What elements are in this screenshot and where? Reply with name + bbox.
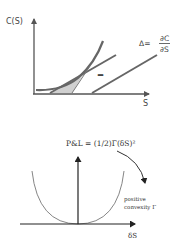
annotation-convexity: convexity Γ	[124, 204, 156, 211]
pnl-formula: P&L = (1/2)Γ(δS)²	[66, 139, 135, 148]
delta-formula: Δ= ∂C ∂S	[139, 34, 170, 54]
y-axis-label: C(S)	[6, 17, 23, 26]
convexity-curved-arrow	[117, 151, 145, 183]
option-price-chart: – C(S) S Δ= ∂C ∂S	[6, 17, 170, 108]
x-axis-label: S	[143, 99, 148, 108]
tangent-delta-line	[50, 55, 116, 93]
minus-sign: –	[97, 66, 104, 82]
pnl-x-axis-label: δS	[128, 232, 137, 240]
gamma-pnl-chart: P&L = (1/2)Γ(δS)² positive convexity Γ δ…	[20, 139, 156, 240]
delta-numerator: ∂C	[160, 34, 169, 43]
delta-lhs: Δ=	[139, 39, 150, 48]
annotation-positive: positive	[124, 196, 146, 203]
delta-gamma-diagram: – C(S) S Δ= ∂C ∂S P&L = (1/2)Γ(δS)² posi…	[0, 0, 178, 245]
delta-denominator: ∂S	[160, 45, 169, 54]
